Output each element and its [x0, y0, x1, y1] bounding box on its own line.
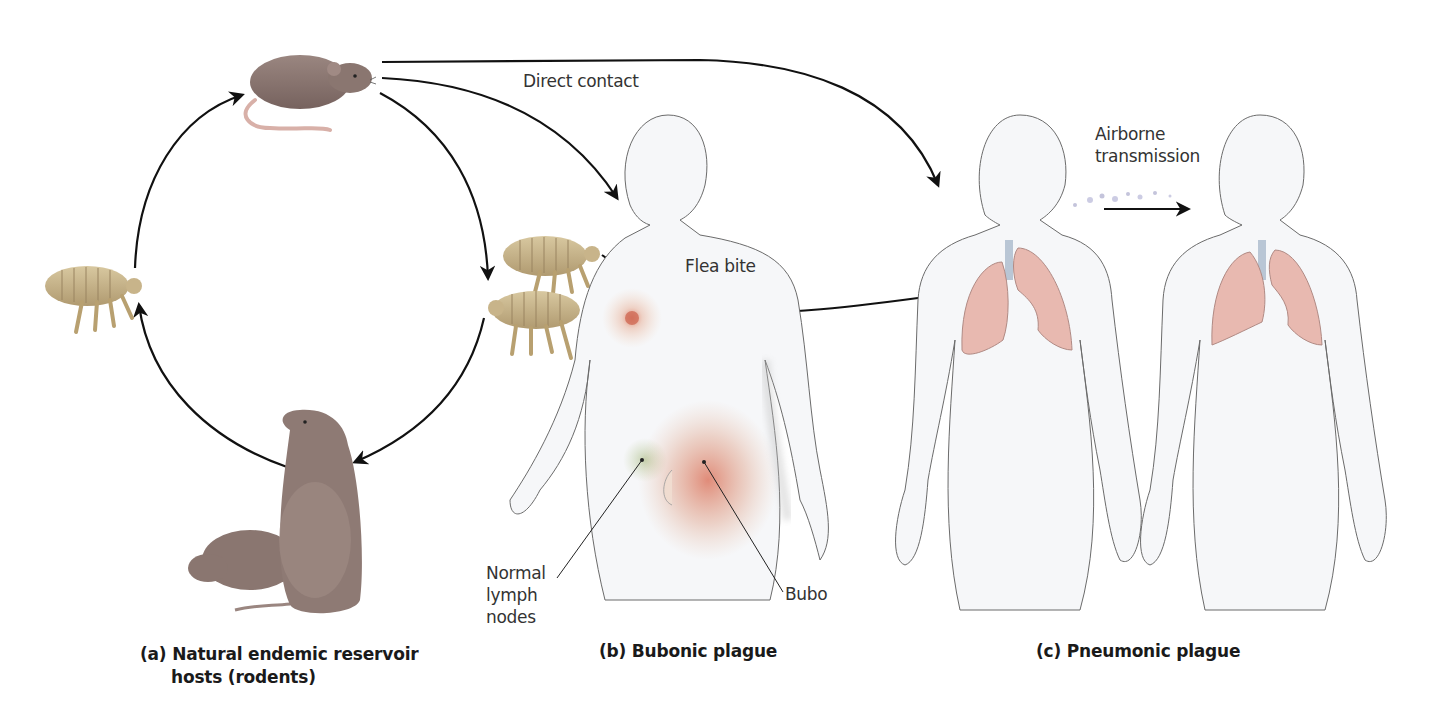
flea-icon — [503, 236, 600, 296]
label-flea-bite: Flea bite — [685, 255, 756, 277]
label-airborne-transmission: Airborne transmission — [1095, 123, 1200, 167]
droplet-cloud-icon — [1073, 191, 1172, 207]
arrow-flea-to-rat — [135, 95, 242, 268]
flea-icon — [488, 291, 580, 358]
prairie-dog-icon — [188, 410, 362, 613]
label-normal-lymph-nodes: Normal lymph nodes — [486, 562, 546, 628]
arrow-direct-contact-to-bubonic — [382, 78, 617, 198]
arrow-fleas-to-prairie-dog — [355, 318, 484, 462]
caption-panel-a-line1: (a) Natural endemic reservoir — [140, 643, 418, 665]
rat-icon — [246, 55, 376, 130]
label-direct-contact: Direct contact — [523, 70, 639, 92]
caption-panel-c: (c) Pneumonic plague — [1036, 640, 1240, 662]
arrow-rat-to-fleas — [380, 93, 488, 278]
caption-panel-b: (b) Bubonic plague — [599, 640, 777, 662]
human-figure-icon — [1141, 115, 1387, 610]
label-bubo: Bubo — [785, 583, 827, 605]
human-figure-icon — [510, 115, 828, 600]
arrow-prairie-dog-to-flea — [139, 305, 287, 467]
flea-icon — [45, 266, 142, 332]
plague-transmission-diagram — [0, 0, 1450, 706]
caption-panel-a-line2: hosts (rodents) — [171, 666, 316, 688]
human-figure-icon — [896, 115, 1142, 610]
